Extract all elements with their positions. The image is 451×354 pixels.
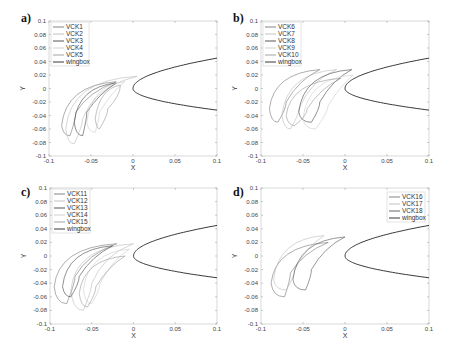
y-tick-label: -0.06	[244, 126, 258, 132]
y-tick-label: 0.06	[35, 212, 47, 218]
legend-label: VCK8	[278, 37, 295, 44]
legend: VCK6VCK7VCK8VCK9VCK10wingbox	[263, 22, 303, 66]
x-axis-label: X	[343, 332, 348, 339]
legend-label: VCK17	[402, 200, 423, 207]
x-tick-label: 0.05	[169, 326, 181, 332]
y-tick-label: -0.04	[33, 280, 47, 286]
y-tick-label: 0.02	[35, 239, 47, 245]
wingbox-curve	[134, 225, 218, 277]
y-tick-label: -0.08	[33, 307, 47, 313]
y-tick-label: -0.1	[37, 321, 48, 327]
y-tick-label: -0.06	[32, 126, 46, 132]
y-tick-label: -0.1	[248, 153, 259, 159]
legend-label: VCK2	[66, 30, 83, 37]
legend-label: VCK9	[278, 44, 295, 51]
legend: VCK16VCK17VCK18wingbox	[387, 192, 427, 222]
legend-label: VCK6	[278, 23, 295, 30]
subplot-a: a) -0.1-0.0500.050.10.10.080.060.040.020…	[0, 0, 225, 177]
legend-label: VCK1	[66, 23, 83, 30]
y-tick-label: -0.04	[244, 113, 258, 119]
legend-label: VCK4	[66, 44, 83, 51]
x-tick-label: -0.05	[296, 326, 310, 332]
legend-label: VCK5	[66, 51, 83, 58]
y-tick-label: 0.02	[246, 239, 258, 245]
series-curve-vck5	[95, 85, 120, 129]
legend-label: VCK7	[278, 30, 295, 37]
plot-svg: -0.1-0.0500.050.10.10.080.060.040.020-0.…	[225, 177, 451, 354]
y-tick-label: 0.1	[38, 18, 47, 24]
x-axis-label: X	[343, 164, 348, 171]
y-axis-label: Y	[231, 86, 238, 91]
legend-label: wingbox	[401, 214, 427, 222]
y-tick-label: 0.04	[246, 226, 258, 232]
wingbox-curve	[345, 58, 429, 110]
x-tick-label: -0.05	[84, 158, 98, 164]
series-curve-vck9	[303, 75, 353, 129]
y-tick-label: 0.08	[246, 199, 258, 205]
y-tick-label: 0.08	[246, 32, 258, 38]
plot-svg: -0.1-0.0500.050.10.10.080.060.040.020-0.…	[0, 177, 225, 354]
y-tick-label: -0.08	[244, 140, 258, 146]
series-curve-vck13	[63, 246, 113, 297]
y-tick-label: 0.02	[34, 72, 46, 78]
y-tick-label: -0.04	[244, 280, 258, 286]
legend-label: VCK16	[402, 193, 423, 200]
y-tick-label: -0.1	[248, 321, 259, 327]
y-tick-label: 0.06	[246, 45, 258, 51]
legend-label: VCK14	[67, 211, 88, 218]
x-tick-label: 0.05	[381, 158, 393, 164]
legend-label: VCK12	[67, 197, 88, 204]
x-tick-label: 0.1	[425, 158, 434, 164]
legend-label: wingbox	[65, 58, 91, 66]
legend-label: VCK13	[67, 204, 88, 211]
series-curve-vck18	[293, 237, 345, 290]
y-tick-label: 0.1	[250, 185, 259, 191]
y-tick-label: -0.02	[32, 99, 46, 105]
x-axis-label: X	[131, 332, 136, 339]
y-tick-label: -0.06	[244, 294, 258, 300]
y-tick-label: 0	[255, 86, 259, 92]
y-tick-label: 0	[43, 86, 47, 92]
y-tick-label: 0.08	[35, 199, 47, 205]
legend-label: VCK3	[66, 37, 83, 44]
y-tick-label: 0.08	[34, 32, 46, 38]
legend-label: VCK18	[402, 207, 423, 214]
y-tick-label: -0.08	[32, 140, 46, 146]
x-tick-label: 0.05	[381, 326, 393, 332]
series-curve-vck2	[66, 76, 137, 144]
y-tick-label: -0.02	[244, 99, 258, 105]
y-tick-label: 0.04	[246, 59, 258, 65]
subplot-c: c) -0.1-0.0500.050.10.10.080.060.040.020…	[0, 177, 225, 354]
y-tick-label: 0.1	[39, 185, 48, 191]
y-tick-label: 0.04	[35, 226, 47, 232]
y-tick-label: 0.06	[246, 212, 258, 218]
x-tick-label: -0.05	[296, 158, 310, 164]
y-tick-label: 0	[255, 253, 259, 259]
x-tick-label: 0.1	[213, 326, 222, 332]
y-tick-label: -0.08	[244, 307, 258, 313]
series-curve-vck14	[83, 249, 129, 303]
y-tick-label: -0.06	[33, 294, 47, 300]
y-tick-label: 0.1	[250, 18, 259, 24]
y-tick-label: 0.06	[34, 45, 46, 51]
legend-label: wingbox	[66, 225, 92, 233]
y-tick-label: 0	[44, 253, 48, 259]
series-curve-vck4	[87, 82, 125, 133]
x-axis-label: X	[131, 164, 136, 171]
y-axis-label: Y	[20, 253, 27, 258]
y-axis-label: Y	[231, 253, 238, 258]
subplot-d: d) -0.1-0.0500.050.10.10.080.060.040.020…	[225, 177, 450, 354]
y-tick-label: 0.04	[34, 59, 46, 65]
x-tick-label: 0.1	[425, 326, 434, 332]
y-tick-label: -0.1	[36, 153, 47, 159]
series-curve-vck7	[282, 70, 337, 129]
x-tick-label: 0.05	[169, 158, 181, 164]
legend-label: VCK10	[278, 51, 299, 58]
legend: VCK11VCK12VCK13VCK14VCK15wingbox	[52, 189, 92, 233]
legend-label: VCK15	[67, 218, 88, 225]
y-axis-label: Y	[19, 86, 26, 91]
legend: VCK1VCK2VCK3VCK4VCK5wingbox	[51, 22, 91, 66]
y-tick-label: -0.04	[32, 113, 46, 119]
y-tick-label: 0.02	[246, 72, 258, 78]
plot-svg: -0.1-0.0500.050.10.10.080.060.040.020-0.…	[0, 0, 225, 177]
